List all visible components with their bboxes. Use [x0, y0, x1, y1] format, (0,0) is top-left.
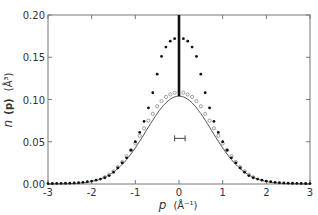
- open-data-point: [199, 105, 202, 108]
- x-tick-label: 3: [307, 187, 313, 198]
- open-data-point: [186, 93, 189, 96]
- filled-data-point: [112, 171, 115, 174]
- filled-data-point: [134, 140, 137, 143]
- filled-data-point: [125, 156, 128, 159]
- open-data-point: [195, 100, 198, 103]
- filled-data-point: [243, 171, 246, 174]
- y-axis-argument: (p): [3, 98, 14, 114]
- y-tick-label: 0.20: [23, 10, 45, 21]
- y-axis-label: n (p) (Å³): [1, 72, 15, 127]
- filled-data-point: [287, 182, 290, 185]
- filled-data-point: [186, 40, 189, 43]
- gaussian-curve-path: [48, 96, 310, 184]
- filled-data-point: [274, 181, 277, 184]
- filled-data-point: [199, 73, 202, 76]
- y-axis: 0.000.050.100.150.20: [23, 10, 310, 190]
- filled-data-point: [143, 120, 146, 123]
- open-data-point: [208, 119, 211, 122]
- x-axis-label: p (Å⁻¹): [158, 198, 198, 212]
- filled-data-point: [95, 179, 98, 182]
- open-data-point: [204, 112, 207, 115]
- momentum-distribution-chart: 0.000.050.100.150.20 -3-2-10123 p (Å⁻¹) …: [0, 0, 318, 215]
- filled-data-point: [213, 120, 216, 123]
- open-data-point: [173, 91, 176, 94]
- filled-data-point: [108, 174, 111, 177]
- filled-data-point: [121, 161, 124, 164]
- filled-data-point: [160, 55, 163, 58]
- filled-data-point: [90, 180, 93, 183]
- x-axis-variable: p: [158, 198, 167, 212]
- y-tick-label: 0.00: [23, 179, 45, 190]
- filled-data-point: [208, 107, 211, 110]
- filled-data-point: [82, 181, 85, 184]
- open-data-point: [138, 134, 141, 137]
- x-tick-label: -1: [130, 187, 140, 198]
- filled-data-point: [99, 178, 102, 181]
- filled-data-point: [230, 156, 233, 159]
- y-axis-unit: (Å³): [2, 72, 14, 91]
- filled-data-point: [217, 131, 220, 134]
- x-tick-label: -2: [87, 187, 97, 198]
- filled-data-point: [265, 180, 268, 183]
- filled-data-point: [130, 149, 133, 152]
- filled-data-point: [304, 182, 307, 185]
- filled-data-point: [221, 140, 224, 143]
- filled-data-point: [226, 149, 229, 152]
- filled-data-point: [51, 182, 54, 185]
- filled-data-point: [116, 167, 119, 170]
- open-data-point: [142, 127, 145, 130]
- x-axis-unit: (Å⁻¹): [173, 199, 197, 211]
- filled-data-point: [252, 176, 255, 179]
- error-bar: [175, 135, 185, 141]
- filled-data-point: [239, 167, 242, 170]
- y-tick-label: 0.05: [23, 137, 45, 148]
- open-data-point: [147, 119, 150, 122]
- filled-data-point: [138, 131, 141, 134]
- filled-data-point: [47, 182, 50, 185]
- open-data-point: [217, 134, 220, 137]
- filled-data-point: [173, 37, 176, 40]
- open-data-point: [191, 95, 194, 98]
- open-data-point: [151, 112, 154, 115]
- filled-data-point: [55, 182, 58, 185]
- y-tick-label: 0.15: [23, 52, 45, 63]
- filled-data-point: [234, 161, 237, 164]
- filled-data-point: [77, 181, 80, 184]
- x-tick-label: -3: [43, 187, 53, 198]
- filled-data-point: [86, 180, 89, 183]
- open-data-point: [169, 93, 172, 96]
- filled-data-point: [191, 46, 194, 49]
- filled-data-point: [261, 179, 264, 182]
- filled-data-point: [182, 37, 185, 40]
- filled-data-point: [147, 107, 150, 110]
- open-data-point: [156, 105, 159, 108]
- open-data-point: [212, 127, 215, 130]
- filled-data-point: [64, 182, 67, 185]
- open-data-point: [160, 100, 163, 103]
- filled-data-point: [300, 182, 303, 185]
- filled-data-point: [278, 181, 281, 184]
- filled-data-point: [60, 182, 63, 185]
- y-axis-variable: n: [1, 120, 15, 128]
- filled-data-point: [247, 174, 250, 177]
- open-circle-series: [103, 91, 255, 179]
- filled-data-point: [204, 91, 207, 94]
- x-tick-label: 1: [219, 187, 225, 198]
- filled-data-point: [156, 73, 159, 76]
- open-data-point: [164, 95, 167, 98]
- filled-data-point: [256, 178, 259, 181]
- filled-data-point: [296, 182, 299, 185]
- gaussian-curve: [48, 96, 310, 184]
- filled-data-point: [269, 180, 272, 183]
- filled-data-point: [103, 176, 106, 179]
- filled-data-point: [151, 91, 154, 94]
- filled-data-point: [165, 46, 168, 49]
- filled-data-point: [169, 40, 172, 43]
- filled-data-point: [309, 182, 312, 185]
- x-tick-label: 0: [176, 187, 182, 198]
- x-tick-label: 2: [263, 187, 269, 198]
- filled-data-point: [73, 182, 76, 185]
- filled-data-point: [282, 182, 285, 185]
- filled-data-point: [195, 55, 198, 58]
- open-data-point: [182, 91, 185, 94]
